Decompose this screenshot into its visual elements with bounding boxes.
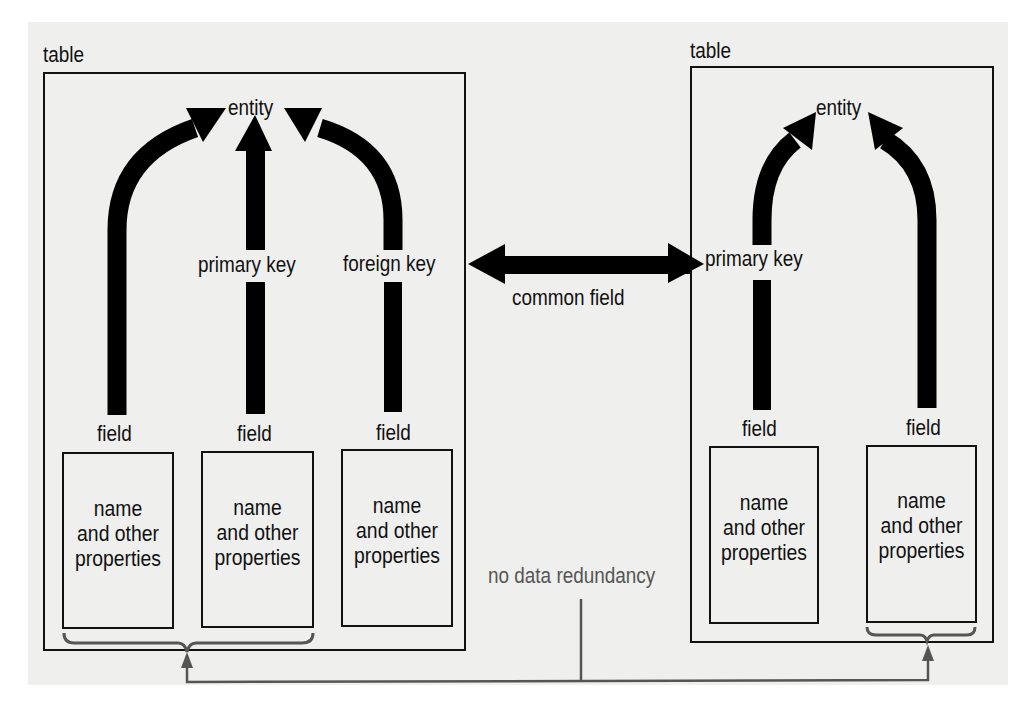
left-field-label-2: field (237, 423, 272, 445)
property-line: name (868, 488, 974, 513)
property-line: name (204, 495, 310, 520)
left-field-label-3: field (376, 422, 411, 444)
left-table-title: table (43, 44, 84, 66)
left-entity-label: entity (228, 97, 273, 119)
property-line: properties (65, 546, 171, 571)
property-line: and other (711, 515, 817, 540)
property-line: properties (711, 540, 817, 565)
right-field-label-2: field (906, 417, 941, 439)
left-connector-arrowhead-icon (181, 652, 193, 668)
right-primary-key-label: primary key (705, 248, 803, 270)
right-field-properties-1: name and other properties (711, 490, 817, 565)
left-field-properties-2: name and other properties (204, 495, 310, 570)
property-line: properties (344, 543, 450, 568)
right-entity-label: entity (816, 97, 861, 119)
property-line: and other (868, 513, 974, 538)
property-line: and other (65, 521, 171, 546)
right-connector-arrowhead-icon (922, 645, 934, 661)
property-line: name (65, 496, 171, 521)
property-line: and other (204, 520, 310, 545)
right-field-label-1: field (742, 418, 777, 440)
left-primary-key-label: primary key (198, 254, 296, 276)
common-field-double-arrow-icon (468, 243, 704, 284)
property-line: properties (868, 538, 974, 563)
foreign-key-label: foreign key (343, 253, 436, 275)
property-line: name (711, 490, 817, 515)
no-redundancy-connector (187, 599, 928, 682)
right-brace-icon (867, 627, 975, 641)
property-line: and other (344, 518, 450, 543)
right-table-title: table (690, 40, 731, 62)
no-data-redundancy-label: no data redundancy (488, 565, 655, 587)
property-line: properties (204, 545, 310, 570)
common-field-label: common field (512, 287, 625, 309)
left-field-properties-3: name and other properties (344, 493, 450, 568)
diagram-canvas (0, 0, 1017, 705)
right-right-curved-arrow-icon (868, 112, 927, 408)
left-field-properties-1: name and other properties (65, 496, 171, 571)
right-field-properties-2: name and other properties (868, 488, 974, 563)
left-field-label-1: field (97, 423, 132, 445)
property-line: name (344, 493, 450, 518)
